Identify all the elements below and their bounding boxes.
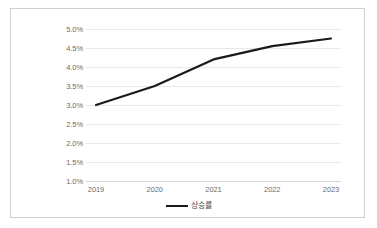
x-axis-tick-label: 2022 [264, 185, 280, 194]
series-line-상승률 [96, 39, 331, 106]
x-axis-tick-label: 2020 [147, 185, 163, 194]
x-axis-tick-label: 2023 [323, 185, 339, 194]
y-axis-tick-label: 2.5% [37, 120, 83, 129]
chart-frame: 5.0%4.5%4.0%3.5%3.0%2.5%2.0%1.5%1.0% 201… [10, 8, 365, 218]
gridline [86, 181, 341, 182]
y-axis-tick-label: 1.0% [37, 177, 83, 186]
x-axis-tick-label: 2019 [88, 185, 104, 194]
axis-origin-mark: · [84, 185, 86, 191]
line-swatch-icon [166, 205, 188, 207]
y-axis-tick-label: 3.0% [37, 101, 83, 110]
y-axis-tick-label: 4.5% [37, 44, 83, 53]
y-axis-tick-label: 5.0% [37, 25, 83, 34]
y-axis-tick-label: 1.5% [37, 158, 83, 167]
chart-legend: 상승률 [11, 202, 366, 210]
y-axis-tick-label: 4.0% [37, 63, 83, 72]
x-axis-tick-label: 2021 [205, 185, 221, 194]
legend-label: 상승률 [191, 202, 212, 210]
y-axis-tick-label: 3.5% [37, 82, 83, 91]
series-line-chart [86, 29, 341, 181]
y-axis-tick-label: 2.0% [37, 139, 83, 148]
x-axis-tick-labels: 20192020202120222023 [86, 185, 341, 199]
plot-area [86, 29, 341, 181]
y-axis-tick-labels: 5.0%4.5%4.0%3.5%3.0%2.5%2.0%1.5%1.0% [31, 29, 83, 181]
